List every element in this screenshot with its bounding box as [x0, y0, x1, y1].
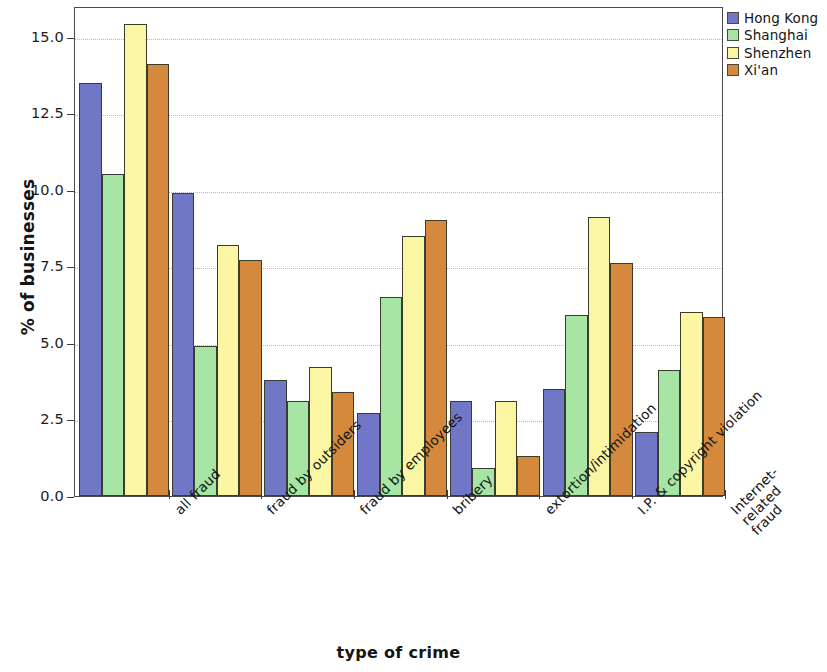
legend-label: Shenzhen [744, 45, 811, 61]
y-tick-label: 15.0 [0, 29, 64, 45]
y-tick-label: 7.5 [0, 258, 64, 274]
legend: Hong KongShanghaiShenzhenXi'an [727, 9, 825, 79]
legend-swatch-icon [727, 12, 739, 24]
y-tick-mark [67, 420, 74, 421]
bar-xi-an [610, 263, 633, 496]
x-tick-mark [354, 490, 355, 499]
y-tick-label: 0.0 [0, 488, 64, 504]
legend-item[interactable]: Shanghai [727, 27, 825, 45]
x-category-label: Internet- related fraud [728, 464, 802, 538]
bar-group [357, 8, 447, 496]
legend-swatch-icon [727, 47, 739, 59]
legend-label: Xi'an [744, 62, 778, 78]
y-tick-label: 12.5 [0, 105, 64, 121]
bar-group [172, 8, 262, 496]
y-tick-mark [67, 191, 74, 192]
bar-group [450, 8, 540, 496]
y-tick-label: 5.0 [0, 335, 64, 351]
legend-swatch-icon [727, 64, 739, 76]
bar-group [635, 8, 725, 496]
y-tick-mark [67, 114, 74, 115]
bar-shenzhen [217, 245, 240, 496]
bar-chart: % of businesses 0.02.55.07.510.012.515.0… [0, 0, 827, 672]
y-tick-label: 10.0 [0, 182, 64, 198]
x-tick-mark [632, 490, 633, 499]
x-tick-mark [725, 490, 726, 499]
bar-xi-an [239, 260, 262, 496]
legend-item[interactable]: Xi'an [727, 62, 825, 80]
legend-swatch-icon [727, 29, 739, 41]
y-tick-mark [67, 497, 74, 498]
x-tick-mark [169, 490, 170, 499]
bar-hong-kong [543, 389, 566, 496]
y-tick-mark [67, 38, 74, 39]
legend-label: Shanghai [744, 27, 808, 43]
y-tick-mark [67, 267, 74, 268]
x-tick-mark [261, 490, 262, 499]
bar-xi-an [703, 317, 726, 496]
x-tick-mark [447, 490, 448, 499]
bar-group [543, 8, 633, 496]
bar-shenzhen [124, 24, 147, 496]
x-axis-title: type of crime [74, 643, 723, 662]
y-tick-mark [67, 344, 74, 345]
bar-xi-an [147, 64, 170, 496]
legend-label: Hong Kong [744, 10, 818, 26]
x-tick-mark [539, 490, 540, 499]
bar-group [79, 8, 169, 496]
bar-hong-kong [172, 193, 195, 496]
bar-shenzhen [495, 401, 518, 496]
bar-hong-kong [79, 83, 102, 496]
bar-hong-kong [264, 380, 287, 496]
y-tick-label: 2.5 [0, 411, 64, 427]
bar-group [264, 8, 354, 496]
legend-item[interactable]: Hong Kong [727, 9, 825, 27]
legend-item[interactable]: Shenzhen [727, 44, 825, 62]
bar-shanghai [102, 174, 125, 496]
bar-xi-an [517, 456, 540, 496]
